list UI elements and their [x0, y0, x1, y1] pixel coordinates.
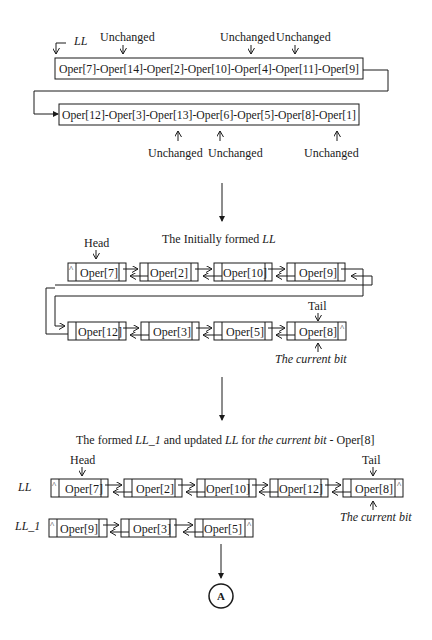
stage2-title: The Initially formed LL [162, 232, 276, 246]
ll1-node-1: ^ Oper[9] [49, 519, 107, 537]
ll-node-row1-3: Oper[10] [214, 263, 272, 281]
ll-node-row2-2: Oper[3] [141, 322, 199, 340]
ll-pointer-arrow [56, 43, 66, 54]
stage3-split-lists: The formed LL_1 and updated LL for the c… [14, 433, 412, 537]
node-label: Oper[7] [65, 482, 103, 496]
sequence-row1-text: Oper[7]-Oper[14]-Oper[2]-Oper[10]-Oper[4… [59, 62, 359, 76]
ll-node-3: Oper[10] [197, 479, 256, 497]
node-label: Oper[12] [78, 325, 122, 339]
node-label: Oper[8] [355, 482, 393, 496]
node-label: Oper[5] [204, 522, 242, 536]
ll-node-2: Oper[2] [124, 479, 182, 497]
sequence-row2-text: Oper[12]-Oper[3]-Oper[13]-Oper[6]-Oper[5… [62, 108, 356, 122]
stage2-initial-ll: The Initially formed LL Head ^ Oper[7] O… [46, 232, 372, 366]
unchanged-label-1: Unchanged [100, 30, 155, 44]
ll-node-5: Oper[8] ^ [343, 479, 403, 497]
stage1-initial-sequence: LL Unchanged Unchanged Unchanged Oper[7]… [34, 30, 388, 160]
unchanged-label-6: Unchanged [304, 146, 359, 160]
ll-node-1: ^ Oper[7] [51, 479, 108, 497]
ll1-row-label: LL_1 [14, 519, 40, 533]
current-bit-label: The current bit [275, 352, 347, 366]
node-label: Oper[2] [150, 266, 188, 280]
connector-a-label: A [217, 590, 225, 602]
ll-node-row2-4: Oper[8] ^ [287, 322, 346, 340]
diagram-canvas: LL Unchanged Unchanged Unchanged Oper[7]… [0, 0, 432, 640]
head-label: Head [70, 453, 95, 467]
ll-node-row1-1: ^ Oper[7] [68, 263, 126, 281]
node-label: Oper[7] [80, 266, 118, 280]
unchanged-label-5: Unchanged [208, 146, 263, 160]
node-label: Oper[3] [153, 325, 191, 339]
node-label: Oper[8] [299, 325, 337, 339]
stage3-title: The formed LL_1 and updated LL for the c… [76, 433, 375, 447]
ll-node-row2-3: Oper[5] [214, 322, 272, 340]
head-label: Head [84, 236, 109, 250]
node-label: Oper[9] [60, 522, 98, 536]
node-label: Oper[5] [226, 325, 264, 339]
unchanged-label-3: Unchanged [276, 30, 331, 44]
tail-label: Tail [362, 453, 381, 467]
current-bit-label: The current bit [340, 510, 412, 524]
ll-label: LL [73, 34, 88, 48]
ll-node-row1-4: Oper[9] [287, 263, 345, 281]
node-label: Oper[9] [299, 266, 337, 280]
tail-label: Tail [308, 299, 327, 313]
ll-node-4: Oper[12] [270, 479, 328, 497]
ll-row-label: LL [17, 480, 32, 494]
ll1-node-3: Oper[5] ^ [195, 519, 253, 537]
ll-node-row1-2: Oper[2] [140, 263, 198, 281]
node-label: Oper[3] [133, 522, 171, 536]
node-label: Oper[10] [223, 266, 267, 280]
node-label: Oper[12] [279, 482, 323, 496]
node-label: Oper[10] [206, 482, 250, 496]
ll-node-row2-1: Oper[12] [68, 322, 126, 340]
unchanged-label-4: Unchanged [148, 146, 203, 160]
unchanged-label-2: Unchanged [220, 30, 275, 44]
wrap-prev-tail [46, 288, 68, 334]
ll1-node-2: Oper[3] [121, 519, 176, 537]
node-label: Oper[2] [136, 482, 174, 496]
